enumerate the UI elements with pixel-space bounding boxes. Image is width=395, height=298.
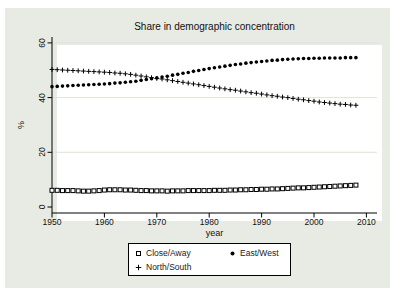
x-tick-label: 2010 [357,217,376,227]
y-tick-label: 60 [37,38,47,47]
legend-item-east-west: East/West [229,248,279,258]
y-axis-label: % [16,121,26,129]
x-tick-label: 2000 [305,217,324,227]
x-tick-label: 1970 [147,217,166,227]
x-tick-label: 1980 [200,217,219,227]
legend-label: East/West [240,248,279,258]
y-tick-label: 40 [37,93,47,102]
legend-label: Close/Away [146,248,191,258]
legend-row: Close/Away East/West [135,246,290,260]
x-tick-label: 1950 [43,217,62,227]
legend-item-north-south: North/South [135,262,229,272]
legend-item-close-away: Close/Away [135,248,229,258]
plot-area [57,45,382,221]
plus-marker-icon [135,264,142,271]
y-tick-label: 20 [37,147,47,156]
x-tick-label: 1960 [95,217,114,227]
y-tick-label: 0 [37,205,47,210]
x-axis-label: year [52,228,377,238]
x-tick-label: 1990 [252,217,271,227]
circle-marker-icon [229,250,236,257]
legend-label: North/South [146,262,191,272]
chart-figure: Share in demographic concentration 0 20 … [0,0,395,298]
legend: Close/Away East/West North/South [128,243,291,276]
square-marker-icon [135,250,142,257]
chart-title: Share in demographic concentration [52,21,377,32]
legend-row: North/South [135,260,290,274]
